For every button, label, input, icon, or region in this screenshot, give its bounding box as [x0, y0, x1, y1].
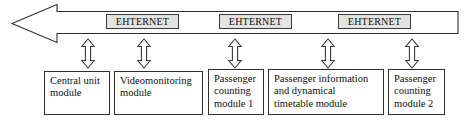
module-text-line: and dynamical: [274, 85, 379, 97]
module-text-line: module 1: [214, 98, 259, 110]
ethernet-label-2: EHTERNET: [219, 14, 292, 29]
ethernet-label-1: EHTERNET: [106, 14, 179, 29]
module-text-line: Passenger: [394, 73, 440, 85]
module-text-line: counting: [214, 85, 259, 97]
module-text-line: module: [120, 87, 198, 99]
module-text-line: timetable module: [274, 98, 379, 110]
module-text-line: module: [50, 87, 105, 99]
central-unit-module: Central unit module: [44, 71, 110, 115]
connector-arrow-1: [80, 38, 96, 69]
connector-arrow-4: [320, 38, 336, 69]
passenger-counting-module-1: Passenger counting module 1: [208, 69, 264, 115]
connector-arrow-2: [136, 38, 152, 69]
module-text-line: Central unit: [50, 75, 105, 87]
connector-arrow-5: [404, 38, 420, 69]
passenger-information-and-dynamical-timetable-module: Passenger information and dynamical time…: [268, 69, 384, 115]
module-text-line: module 2: [394, 98, 440, 110]
module-text-line: Passenger: [214, 73, 259, 85]
passenger-counting-module-2: Passenger counting module 2: [388, 69, 445, 115]
module-text-line: Videomonitoring: [120, 75, 198, 87]
module-text-line: Passenger information: [274, 73, 379, 85]
videomonitoring-module: Videomonitoring module: [114, 71, 203, 115]
module-text-line: counting: [394, 85, 440, 97]
ethernet-label-3: EHTERNET: [338, 14, 411, 29]
system-architecture-diagram: EHTERNET EHTERNET EHTERNET Central unit …: [0, 0, 471, 126]
connector-arrow-3: [227, 38, 243, 69]
